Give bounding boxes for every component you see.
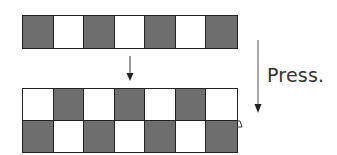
press-down-arrow-icon [255, 40, 262, 113]
press-label: Press. [267, 64, 324, 86]
notch-triangle-icon [237, 121, 242, 127]
small-down-arrow-icon [127, 56, 134, 81]
